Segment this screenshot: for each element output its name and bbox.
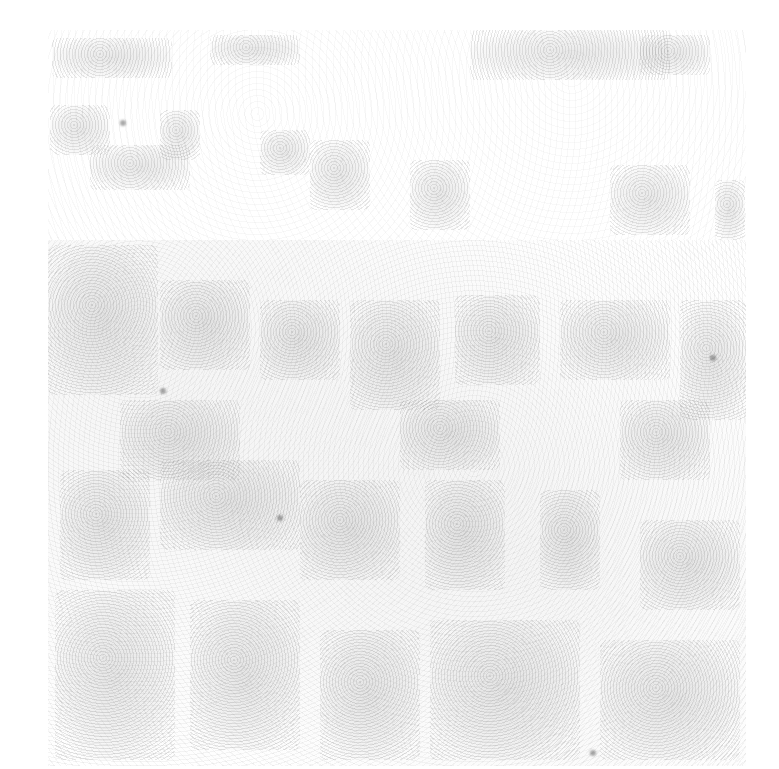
dark-speck: [277, 515, 283, 521]
texture-patch: [350, 300, 440, 410]
dark-speck: [160, 388, 166, 394]
texture-patch: [610, 165, 690, 235]
texture-patch: [160, 110, 200, 160]
texture-patch: [620, 400, 710, 480]
texture-patch: [60, 470, 150, 580]
texture-patch: [310, 140, 370, 210]
texture-patch: [455, 295, 540, 385]
texture-patch: [640, 520, 740, 610]
texture-patch: [160, 280, 250, 370]
texture-patch: [430, 620, 580, 760]
texture-patch: [190, 600, 300, 750]
texture-patch: [640, 35, 710, 75]
texture-patch: [600, 640, 740, 760]
texture-patch: [320, 630, 420, 760]
texture-patch: [48, 245, 158, 395]
texture-patch: [400, 400, 500, 470]
texture-patch: [715, 180, 745, 240]
texture-patch: [425, 480, 505, 590]
texture-patch: [540, 490, 600, 590]
dark-speck: [590, 750, 596, 756]
noise-texture-canvas: [0, 0, 779, 769]
dark-speck: [120, 120, 126, 126]
texture-patch: [560, 300, 670, 380]
texture-patch: [260, 130, 310, 175]
texture-patch: [410, 160, 470, 230]
texture-patch: [52, 38, 172, 78]
texture-patch: [260, 300, 340, 380]
dark-speck: [710, 355, 716, 361]
texture-patch: [55, 590, 175, 760]
texture-patch: [300, 480, 400, 580]
texture-patch: [210, 35, 300, 65]
texture-patch: [160, 460, 300, 550]
